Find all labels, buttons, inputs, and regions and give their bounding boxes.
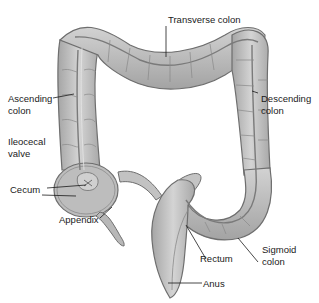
label-transverse-colon: Transverse colon (168, 14, 241, 25)
label-sigmoid-colon: Sigmoid (262, 244, 296, 255)
label-anus: Anus (203, 278, 225, 289)
label-sigmoid-colon-line2: colon (262, 256, 285, 267)
sigmoid-leader (238, 238, 258, 262)
label-cecum: Cecum (10, 184, 40, 195)
label-appendix: Appendix (59, 214, 99, 225)
label-descending-colon: Descending (261, 93, 311, 104)
label-ascending-colon-line2: colon (8, 105, 31, 116)
colon-diagram: Transverse colon Ascending colon Descend… (0, 0, 319, 303)
label-ascending-colon: Ascending (8, 93, 52, 104)
label-ileocecal-valve-line2: valve (8, 148, 30, 159)
label-rectum: Rectum (200, 253, 233, 264)
label-descending-colon-line2: colon (261, 105, 284, 116)
label-ileocecal-valve: Ileocecal (8, 136, 46, 147)
